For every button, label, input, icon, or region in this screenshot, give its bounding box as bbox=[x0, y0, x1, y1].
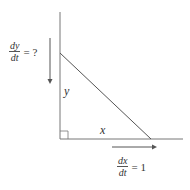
dy-dt-label: dy dt = ? bbox=[9, 40, 37, 63]
dt-denominator: dt bbox=[119, 167, 127, 178]
arrow-down-icon bbox=[48, 79, 53, 84]
hypotenuse-line bbox=[60, 53, 151, 139]
dx-numerator: dx bbox=[117, 155, 128, 167]
right-angle-marker bbox=[60, 131, 68, 139]
dx-dt-label: dx dt = 1 bbox=[117, 155, 146, 178]
x-side-label: x bbox=[100, 123, 105, 138]
dx-dt-value: = 1 bbox=[131, 161, 145, 173]
dy-numerator: dy bbox=[9, 40, 20, 52]
dt-denominator: dt bbox=[11, 52, 19, 63]
dy-dt-value: = ? bbox=[23, 46, 37, 58]
dy-dt-fraction: dy dt bbox=[9, 40, 20, 63]
related-rates-diagram: y x dy dt = ? dx dt = 1 bbox=[0, 0, 190, 190]
dx-dt-fraction: dx dt bbox=[117, 155, 128, 178]
y-side-label: y bbox=[64, 84, 69, 99]
diagram-canvas bbox=[0, 0, 190, 190]
arrow-right-icon bbox=[152, 145, 157, 150]
